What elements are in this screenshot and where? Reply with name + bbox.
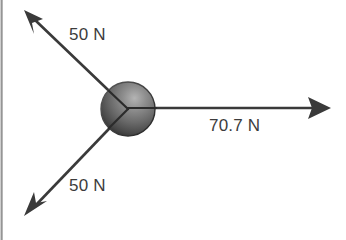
force-label-resultant: 70.7 N [209, 116, 260, 136]
force-vector-diagram: 50 N 50 N 70.7 N [0, 0, 346, 240]
force-label-lower-left: 50 N [69, 176, 106, 196]
force-label-upper-left: 50 N [69, 25, 106, 45]
vector-canvas [0, 0, 346, 240]
force-upper-left-arrowhead [24, 10, 43, 34]
